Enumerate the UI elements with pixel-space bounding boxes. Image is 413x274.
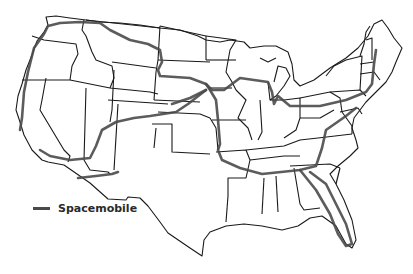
us-map: [0, 0, 413, 274]
legend-label-spacemobile: Spacemobile: [58, 202, 137, 215]
map-legend: Spacemobile: [33, 202, 137, 215]
route-line-swatch-icon: [33, 207, 50, 210]
